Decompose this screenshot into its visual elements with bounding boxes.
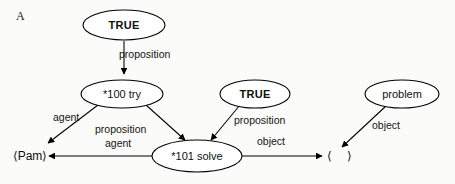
edge-solve-to-empty-concept: object [242,135,322,156]
node-label-pam: ⟨Pam⟩ [13,149,48,163]
semantic-network-diagram: proposition agent proposition propositio… [0,0,455,184]
edge-label-proposition-2: proposition [95,123,147,135]
edge-label-proposition-1: proposition [119,48,171,60]
node-true-mid[interactable]: TRUE [220,80,290,108]
edge-label-object-1: object [257,135,285,147]
node-label-solve-101: *101 solve [171,150,222,162]
panel-letter: A [16,9,25,23]
node-label-try-100: *100 try [103,88,141,100]
edge-label-agent-1: agent [53,111,79,123]
node-label-true-mid: TRUE [239,88,270,100]
edge-label-agent-2: agent [105,137,131,149]
node-label-problem: problem [382,88,422,100]
node-empty-concept[interactable]: ⟨ ⟩ [327,149,352,163]
node-solve-101[interactable]: *101 solve [152,140,242,172]
node-label-empty-concept-close: ⟩ [347,149,352,163]
node-pam[interactable]: ⟨Pam⟩ [13,149,48,163]
node-problem[interactable]: problem [365,80,439,108]
node-true-top[interactable]: TRUE [83,10,165,40]
diagram-canvas: proposition agent proposition propositio… [0,0,455,184]
edge-true-top-to-try: proposition [119,41,171,74]
edge-try-to-solve: proposition [95,105,185,140]
node-try-100[interactable]: *100 try [81,80,163,108]
edge-solve-to-pam: agent [49,137,152,156]
node-label-empty-concept-open: ⟨ [327,149,332,163]
edge-problem-to-empty-concept: object [342,106,400,147]
edge-label-object-2: object [372,119,400,131]
edge-try-to-pam: agent [48,105,98,143]
node-label-true-top: TRUE [108,19,139,31]
edge-label-proposition-3: proposition [234,114,286,126]
